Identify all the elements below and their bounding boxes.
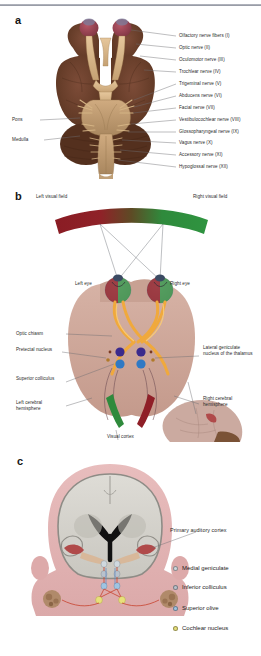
- visual-projection-lines: [100, 224, 163, 280]
- panel-a-label-nerve-12: Hypoglossal nerve (XII): [179, 164, 228, 170]
- panel-a-label-nerve-4: Trochlear nerve (IV): [179, 69, 221, 75]
- panel-b-label-right-eye: Right eye: [170, 281, 190, 287]
- panel-b-label-superior-colliculus: Superior colliculus: [16, 376, 60, 382]
- panel-c-label-primary-auditory-cortex: Primary auditory cortex: [170, 527, 227, 534]
- legend-dot-inferior-colliculus: [173, 585, 178, 590]
- olfactory-bulbs: [80, 19, 132, 38]
- panel-a-label-nerve-11: Accessory nerve (XI): [179, 152, 223, 158]
- panel-a-label-nerve-3: Oculomotor nerve (III): [179, 57, 225, 63]
- cochlea-left: [43, 590, 61, 608]
- panel-a-label-nerve-1: Olfactory nerve fibers (I): [179, 33, 230, 39]
- panel-a-label-nerve-2: Optic nerve (II): [179, 45, 210, 51]
- panel-b-label-visual-cortex: Visual cortex: [107, 434, 134, 440]
- legend-label-superior-olive: Superior olive: [182, 605, 219, 611]
- panel-b-label-right-visual-field: Right visual field: [193, 194, 227, 200]
- panel-a-label-nerve-10: Vagus nerve (X): [179, 140, 213, 146]
- legend-label-inferior-colliculus: Inferior colliculus: [182, 584, 227, 590]
- legend-dot-superior-olive: [173, 606, 178, 611]
- panel-a-label-nerve-8: Vestibulocochlear nerve (VIII): [179, 117, 241, 123]
- neuroanatomy-figure: a: [0, 0, 261, 656]
- legend-item-medial-geniculate: Medial geniculate: [173, 565, 229, 571]
- legend-dot-medial-geniculate: [173, 566, 178, 571]
- panel-a-label-nerve-6: Abducens nerve (VI): [179, 93, 222, 99]
- legend-item-cochlear-nucleus: Cochlear nucleus: [173, 625, 228, 631]
- cerebrum-dorsal-view: [68, 279, 195, 416]
- panel-a-label-medulla: Medulla: [12, 137, 28, 143]
- legend-label-medial-geniculate: Medial geniculate: [182, 565, 229, 571]
- panel-b-label-left-cerebral-hemisphere: Left cerebral hemisphere: [16, 400, 56, 412]
- panel-b-label-optic-chiasm: Optic chiasm: [16, 331, 43, 337]
- panel-b-label-right-cerebral-hemisphere: Right cerebral hemisphere: [203, 396, 247, 408]
- medulla: [98, 134, 114, 179]
- eye-right: [147, 275, 173, 304]
- panel-a-label-nerve-7: Facial nerve (VII): [179, 105, 215, 111]
- eye-left: [105, 275, 131, 304]
- panel-a-label-nerve-9: Glossopharyngeal nerve (IX): [179, 129, 239, 135]
- panel-b-label-left-visual-field: Left visual field: [36, 194, 67, 200]
- panel-a-label-pons: Pons: [12, 117, 23, 123]
- panel-a-label-nerve-5: Trigeminal nerve (V): [179, 81, 221, 87]
- legend-dot-cochlear-nucleus: [173, 626, 178, 631]
- legend-label-cochlear-nucleus: Cochlear nucleus: [182, 625, 228, 631]
- panel-b-label-pretectal-nucleus: Pretectal nucleus: [16, 347, 60, 353]
- brain-coronal: [58, 474, 162, 579]
- legend-item-inferior-colliculus: Inferior colliculus: [173, 584, 227, 590]
- panel-b-label-left-eye: Left eye: [75, 281, 92, 287]
- visual-field-arc: [55, 208, 208, 234]
- panel-b-label-lateral-geniculate-nucleus: Lateral geniculate nucleus of the thalam…: [203, 345, 255, 357]
- legend-item-superior-olive: Superior olive: [173, 605, 219, 611]
